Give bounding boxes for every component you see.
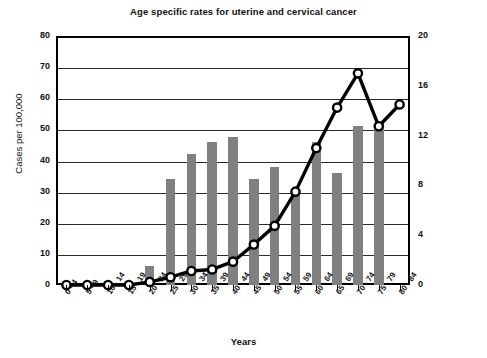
line-chart-svg [56,36,410,285]
chart-figure: Age specific rates for uterine and cervi… [0,0,487,358]
y-axis-tick-left: 50 [16,123,50,133]
y-axis-tick-left: 40 [16,155,50,165]
line-marker [333,103,341,111]
line-marker [250,240,258,248]
y-axis-tick-left: 10 [16,248,50,258]
chart-title: Age specific rates for uterine and cervi… [0,6,487,17]
line-marker [375,122,383,130]
line-marker [354,69,362,77]
y-axis-tick-left: 60 [16,92,50,102]
y-axis-label: Cases per 100,000 [13,64,24,204]
line-marker [395,100,403,108]
y-axis-tick-right: 12 [418,130,452,140]
y-axis-tick-left: 70 [16,61,50,71]
y-axis-tick-left: 80 [16,30,50,40]
line-series-layer [56,36,410,285]
x-axis-label: Years [0,336,487,347]
y-axis-tick-right: 0 [418,279,452,289]
y-axis-tick-right: 20 [418,30,452,40]
y-axis-tick-right: 4 [418,229,452,239]
y-axis-tick-right: 8 [418,179,452,189]
y-axis-tick-left: 20 [16,217,50,227]
y-axis-tick-left: 0 [16,279,50,289]
line-marker [208,265,216,273]
y-axis-tick-right: 16 [418,80,452,90]
line-marker [229,258,237,266]
line-path [66,73,399,285]
line-marker [291,188,299,196]
line-marker [271,222,279,230]
y-axis-tick-left: 30 [16,186,50,196]
line-marker [312,144,320,152]
